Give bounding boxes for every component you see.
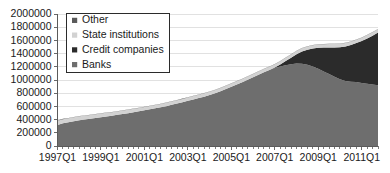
legend-swatch-state-institutions (72, 33, 77, 38)
y-axis-tick-labels: 2000000180000016000001400000120000010000… (11, 7, 52, 151)
y-tick-label: 400000 (16, 113, 51, 125)
y-tick-label: 1600000 (11, 34, 52, 46)
legend-label-banks: Banks (82, 58, 111, 70)
legend-label-other: Other (82, 13, 109, 25)
legend-label-state-institutions: State institutions (82, 28, 159, 40)
legend-label-credit-companies: Credit companies (82, 43, 164, 55)
y-tick-label: 800000 (16, 86, 51, 98)
y-tick-label: 1200000 (11, 60, 52, 72)
chart-legend: OtherState institutionsCredit companiesB… (66, 13, 169, 72)
x-tick-label: 1999Q1 (82, 151, 120, 163)
stacked-area-chart: 2000000180000016000001400000120000010000… (0, 0, 390, 173)
y-tick-label: 600000 (16, 100, 51, 112)
y-tick-label: 1000000 (11, 73, 52, 85)
x-tick-label: 2001Q1 (126, 151, 164, 163)
x-tick-label: 2003Q1 (169, 151, 207, 163)
legend-swatch-banks (72, 62, 77, 67)
y-tick-label: 0 (46, 139, 52, 151)
legend-swatch-other (72, 18, 77, 23)
y-tick-label: 2000000 (11, 7, 52, 19)
x-tick-label: 2011Q1 (343, 151, 380, 163)
x-tick-label: 2009Q1 (300, 151, 338, 163)
chart-container: 2000000180000016000001400000120000010000… (0, 0, 390, 173)
y-tick-label: 200000 (16, 126, 51, 138)
y-tick-label: 1400000 (11, 47, 52, 59)
legend-swatch-credit-companies (72, 47, 77, 52)
x-tick-label: 2007Q1 (256, 151, 294, 163)
x-tick-label: 2005Q1 (213, 151, 251, 163)
y-tick-label: 1800000 (11, 20, 52, 32)
x-tick-label: 1997Q1 (39, 151, 77, 163)
